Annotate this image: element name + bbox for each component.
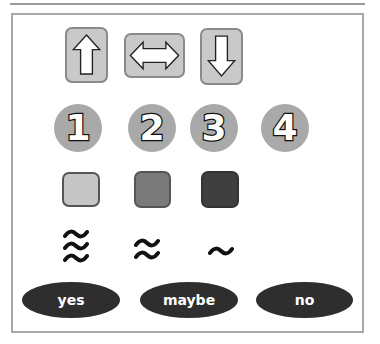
number-2-label: 2 xyxy=(139,110,164,146)
arrow-down-icon xyxy=(202,30,241,83)
yes-button[interactable]: yes xyxy=(22,282,120,318)
no-label: no xyxy=(295,292,315,308)
swatch-dark[interactable] xyxy=(201,171,239,208)
yes-label: yes xyxy=(58,292,85,308)
number-1-label: 1 xyxy=(65,110,90,146)
triple-wave-icon[interactable] xyxy=(63,228,89,266)
arrow-left-right-button[interactable] xyxy=(124,33,185,78)
number-3-badge[interactable]: 3 xyxy=(190,104,238,152)
single-wave-icon[interactable] xyxy=(208,244,234,258)
top-divider xyxy=(10,3,365,5)
no-button[interactable]: no xyxy=(256,282,353,318)
arrow-up-icon xyxy=(67,29,106,81)
swatch-medium[interactable] xyxy=(134,171,171,208)
number-3-label: 3 xyxy=(201,110,226,146)
number-2-badge[interactable]: 2 xyxy=(128,104,176,152)
double-wave-icon[interactable] xyxy=(134,237,160,263)
arrow-up-button[interactable] xyxy=(65,27,108,83)
number-4-badge[interactable]: 4 xyxy=(261,104,309,152)
maybe-label: maybe xyxy=(163,292,215,308)
swatch-light[interactable] xyxy=(62,172,100,207)
number-1-badge[interactable]: 1 xyxy=(54,104,102,152)
number-4-label: 4 xyxy=(272,110,297,146)
maybe-button[interactable]: maybe xyxy=(140,282,238,318)
arrow-left-right-icon xyxy=(126,35,183,76)
arrow-down-button[interactable] xyxy=(200,28,243,85)
